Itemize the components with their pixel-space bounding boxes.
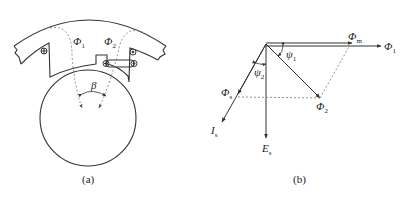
caption-a: (a) <box>82 174 94 185</box>
label-phi1-a: Φ1 <box>73 36 85 50</box>
beta-angle-arc <box>82 91 106 96</box>
dashed-phi-2-to-phi-m <box>320 45 350 98</box>
label-phi2-a: Φ2 <box>104 36 116 50</box>
label-phi-m: Φm <box>348 31 362 45</box>
label-phi-1-b: Φ1 <box>384 41 396 55</box>
coil-conductor-right <box>130 49 136 55</box>
label-i-s: Is <box>211 125 217 139</box>
label-psi-1: ψ1 <box>286 49 296 63</box>
label-phi-s: Φs <box>221 87 232 101</box>
stator-yoke <box>14 20 166 82</box>
caption-b: (b) <box>293 174 306 185</box>
psi2-angle-arc <box>256 63 266 64</box>
label-psi-2: ψ2 <box>254 67 264 81</box>
label-e-s: Es <box>262 143 271 157</box>
rotor <box>40 70 136 166</box>
label-phi-2-b: Φ2 <box>316 101 328 115</box>
diagram-canvas <box>0 0 406 197</box>
coil-conductor-left <box>41 48 47 54</box>
dashed-phi-s-to-phi-2 <box>238 97 320 98</box>
label-beta: β <box>91 80 96 91</box>
shading-ring <box>103 60 137 67</box>
psi1-angle-arc <box>278 46 283 56</box>
